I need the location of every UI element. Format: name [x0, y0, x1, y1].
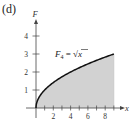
x-tick-label: 6	[86, 112, 90, 121]
shaded-area	[36, 54, 114, 108]
x-tick-label: 8	[103, 112, 107, 121]
y-tick-label: 4	[24, 32, 28, 41]
x-tick-label: 4	[69, 112, 73, 121]
x-tick-label: 2	[51, 112, 55, 121]
x-axis-label: x	[124, 103, 129, 113]
y-tick-label: 1	[24, 86, 28, 95]
sqrt-area-chart: 24681234xFF4 = √x	[0, 0, 132, 123]
function-label: F4 = √x	[54, 49, 82, 60]
shaded-region	[36, 54, 114, 108]
y-tick-label: 2	[24, 68, 28, 77]
y-tick-label: 3	[24, 50, 28, 59]
y-axis-arrow-icon	[34, 19, 38, 24]
y-axis-label: F	[31, 9, 38, 19]
